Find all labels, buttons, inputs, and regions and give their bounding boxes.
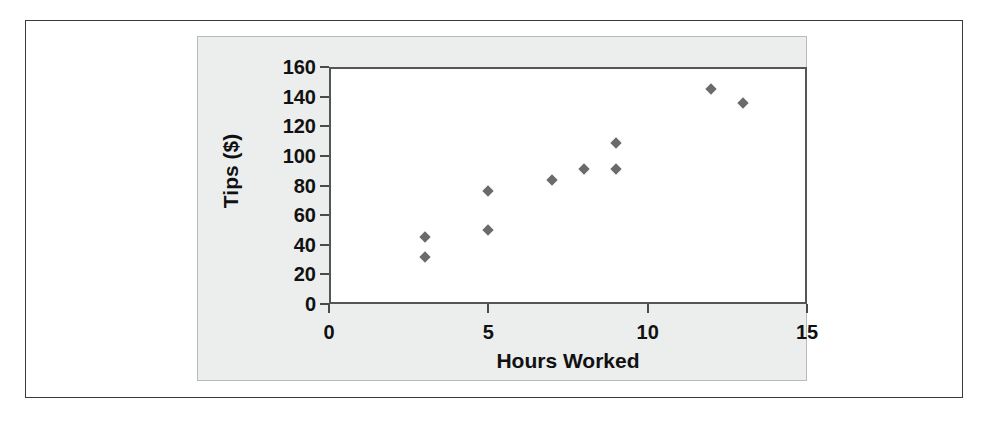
data-point [610,164,621,175]
y-axis-tick-label: 0 [305,294,316,314]
x-axis-tick [487,304,489,313]
y-axis-tick-label: 60 [294,205,316,225]
x-axis-tick-label: 10 [637,322,659,342]
y-axis-tick-label: 80 [294,176,316,196]
y-axis-tick-label: 160 [283,57,316,77]
plot-area [329,67,807,304]
x-axis-title: Hours Worked [329,349,807,373]
x-axis-tick [806,304,808,313]
y-axis-tick-label: 140 [283,87,316,107]
data-point [610,137,621,148]
data-point [578,164,589,175]
data-point [546,174,557,185]
y-axis-tick-label: 20 [294,264,316,284]
data-point [483,224,494,235]
y-axis-tick-label: 40 [294,235,316,255]
data-point [419,232,430,243]
plot-frame-bottom [329,302,807,304]
data-point [419,251,430,262]
x-axis-tick-label: 5 [483,322,494,342]
y-axis-tick [320,155,329,157]
y-axis-tick [320,273,329,275]
chart-panel: Tips ($) 020406080100120140160 051015 Ho… [197,36,807,381]
y-axis-tick-label: 120 [283,116,316,136]
x-axis-tick [647,304,649,313]
y-axis-tick [320,244,329,246]
plot-frame-left [329,67,331,304]
y-axis-tick [320,66,329,68]
y-axis-tick [320,185,329,187]
figure-frame: Tips ($) 020406080100120140160 051015 Ho… [25,20,963,398]
y-axis-tick-labels: 020406080100120140160 [198,67,316,304]
plot-frame-right [805,67,807,304]
y-axis-tick [320,214,329,216]
data-point [483,186,494,197]
plot-frame-top [329,67,807,69]
y-axis-tick-label: 100 [283,146,316,166]
x-axis-tick-labels: 051015 [329,314,807,344]
x-axis-tick-label: 0 [323,322,334,342]
y-axis-tick [320,125,329,127]
data-point [738,97,749,108]
y-axis-tick [320,96,329,98]
data-point [706,84,717,95]
x-axis-tick-label: 15 [796,322,818,342]
x-axis-tick [328,304,330,313]
